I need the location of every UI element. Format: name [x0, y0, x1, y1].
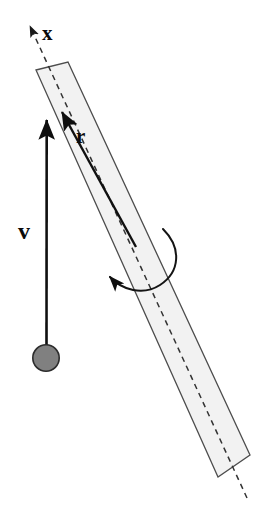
velocity-label-v: v: [18, 218, 30, 244]
axis-label-x: x: [42, 21, 53, 45]
physics-diagram: x v r: [0, 0, 270, 515]
particle-ball: [33, 345, 59, 371]
radius-label-r: r: [76, 124, 85, 148]
diagram-canvas: x v r: [0, 0, 270, 515]
